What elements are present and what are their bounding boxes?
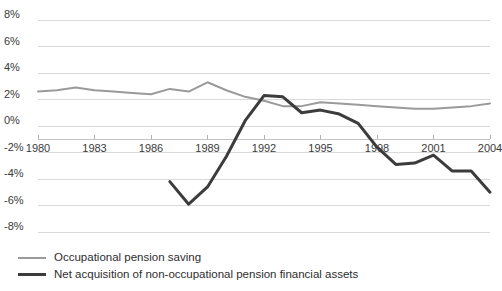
x-axis-tick-label: 1983 — [82, 143, 106, 154]
gridlines — [38, 20, 490, 232]
y-axis-tick-label: -8% — [4, 221, 24, 232]
y-axis-tick-label: 8% — [4, 9, 20, 20]
legend-line-swatch-icon — [18, 273, 46, 276]
x-axis-tick-label: 1998 — [365, 143, 389, 154]
x-axis-tick-label: 1992 — [252, 143, 276, 154]
y-axis-tick-label: -2% — [4, 142, 24, 153]
x-axis-tick-label: 1995 — [308, 143, 332, 154]
legend-item-label: Net acquisition of non-occupational pens… — [54, 269, 358, 281]
x-axis-tick-label: 1980 — [26, 143, 50, 154]
legend-line-swatch-icon — [18, 257, 46, 259]
x-axis-tick-label: 2004 — [478, 143, 502, 154]
y-axis-tick-label: -6% — [4, 195, 24, 206]
y-axis-tick-label: 6% — [4, 36, 20, 47]
legend-item-occupational-pension-saving: Occupational pension saving — [18, 249, 488, 266]
y-axis-tick-label: 4% — [4, 62, 20, 73]
legend-item-net-acquisition: Net acquisition of non-occupational pens… — [18, 266, 488, 283]
x-axis-tick-label: 1986 — [139, 143, 163, 154]
chart-legend: Occupational pension saving Net acquisit… — [18, 249, 488, 283]
y-axis-tick-label: 0% — [4, 115, 20, 126]
x-axis-ticks — [38, 135, 490, 139]
y-axis-tick-label: 2% — [4, 89, 20, 100]
x-axis-tick-label: 1989 — [195, 143, 219, 154]
y-axis-tick-label: -4% — [4, 168, 24, 179]
legend-item-label: Occupational pension saving — [54, 252, 201, 264]
x-axis-tick-label: 2001 — [421, 143, 445, 154]
